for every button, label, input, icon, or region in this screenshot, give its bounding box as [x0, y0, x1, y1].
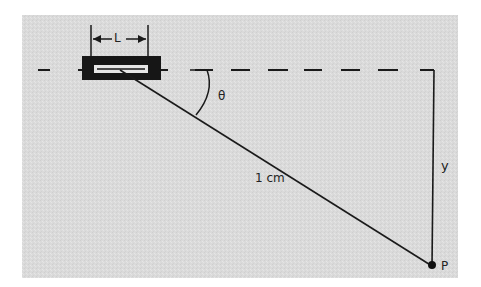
point-label: P	[441, 260, 448, 272]
distance-label: 1 cm	[255, 172, 285, 184]
y-label: y	[441, 159, 449, 172]
angle-label: θ	[218, 90, 225, 102]
slit-box	[82, 56, 161, 80]
length-label: L	[114, 32, 121, 44]
background-panel	[22, 15, 458, 278]
diagram: L θ 1 cm y P	[0, 0, 481, 287]
point-p	[428, 261, 436, 269]
